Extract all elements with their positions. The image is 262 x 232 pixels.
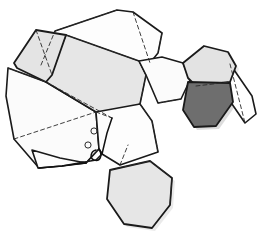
net-diagram-svg xyxy=(0,0,262,232)
net-diagram-canvas: Unfolded polygonal net Technical line dr… xyxy=(0,0,262,232)
